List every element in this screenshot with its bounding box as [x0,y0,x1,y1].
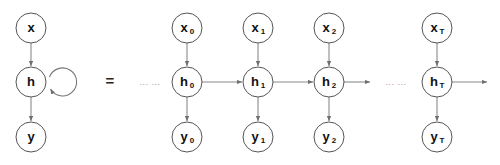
node-output-t2-subscript: 2 [332,136,337,145]
node-input-t2: x2 [314,13,344,43]
node-output-t1-subscript: 1 [261,136,266,145]
node-output-t2: y2 [314,122,344,152]
rnn-unfolding-diagram: xhyx0h0y0x1h1y1x2h2y2xThTyT =... ...... … [0,0,500,165]
node-hidden-tT-subscript: T [440,81,445,90]
node-input-t0: x0 [172,13,202,43]
node-output-t1: y1 [243,122,273,152]
node-output-tT-label: y [430,129,438,144]
node-input-t0-label: x [180,20,188,35]
node-output-tT-subscript: T [440,136,445,145]
diagram-canvas: xhyx0h0y0x1h1y1x2h2y2xThTyT =... ...... … [0,0,500,165]
node-input-tT-subscript: T [440,27,445,36]
node-hidden-t1-subscript: 1 [261,81,266,90]
node-x-label: x [27,20,35,35]
node-hidden-t0-subscript: 0 [190,81,195,90]
node-output-t0-label: y [180,129,188,144]
node-input-t2-label: x [322,20,330,35]
node-input-t1-label: x [251,20,259,35]
node-hidden-tT: hT [422,67,452,97]
node-hidden-t0-label: h [180,74,188,89]
node-output-t0: y0 [172,122,202,152]
node-output-t0-subscript: 0 [190,136,195,145]
node-input-t1: x1 [243,13,273,43]
node-y: y [16,122,46,152]
node-x: x [16,13,46,43]
node-hidden-t1-label: h [251,74,259,89]
equals-sign: = [106,72,115,89]
node-hidden-t0: h0 [172,67,202,97]
node-input-tT-label: x [430,20,438,35]
node-output-tT: yT [422,122,452,152]
ellipsis-left: ... ... [139,77,160,87]
node-output-t2-label: y [322,129,330,144]
node-hidden-tT-label: h [430,74,438,89]
node-hidden-t2-subscript: 2 [332,81,337,90]
node-h-label: h [27,74,35,89]
node-y-label: y [27,129,35,144]
node-hidden-t2-label: h [322,74,330,89]
node-input-t2-subscript: 2 [332,27,337,36]
node-input-tT: xT [422,13,452,43]
node-input-t0-subscript: 0 [190,27,195,36]
self-loop-layer [50,68,77,96]
ellipsis-right: ... ... [385,77,406,87]
node-hidden-t1: h1 [243,67,273,97]
node-hidden-t2: h2 [314,67,344,97]
node-h: h [16,67,46,97]
node-output-t1-label: y [251,129,259,144]
node-input-t1-subscript: 1 [261,27,266,36]
self-loop-arrow [50,68,77,96]
